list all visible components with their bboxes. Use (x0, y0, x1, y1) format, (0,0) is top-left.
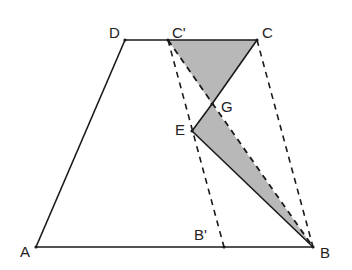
label-b-prime: B' (194, 226, 207, 243)
geometry-diagram: A B C D C' B' E G (0, 0, 352, 270)
point-a (34, 245, 37, 248)
label-d: D (109, 24, 120, 41)
shaded-triangle-e-g-b (192, 104, 313, 247)
label-b: B (320, 244, 330, 261)
point-e (190, 129, 193, 132)
segment-eb (192, 131, 313, 247)
label-e: E (175, 121, 185, 138)
point-c (255, 38, 258, 41)
point-g (210, 102, 213, 105)
label-c: C (262, 24, 273, 41)
point-c-prime (166, 38, 169, 41)
dashed-segment-cprime-b (168, 40, 313, 247)
label-c-prime: C' (172, 24, 186, 41)
label-a: A (20, 243, 30, 260)
label-g: G (221, 98, 233, 115)
point-d (123, 38, 126, 41)
segment-ad (36, 40, 125, 247)
point-b (311, 245, 314, 248)
point-b-prime (222, 245, 225, 248)
shaded-triangle-cprime-c-g (168, 40, 257, 104)
